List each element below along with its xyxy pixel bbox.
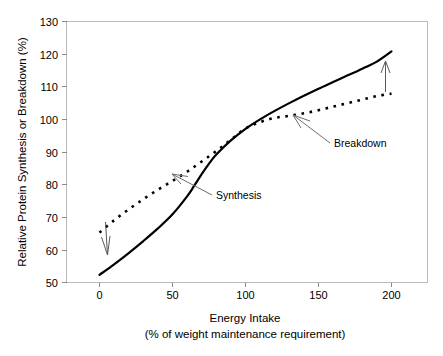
y-tick-label-60: 60 [46,245,58,257]
breakdown-annotation-label: Breakdown [334,137,387,149]
x-tick-label-150: 150 [309,289,327,301]
y-tick-label-90: 90 [46,147,58,159]
synthesis-annotation-label: Synthesis [216,189,262,201]
chart-figure: 130 120 110 100 90 80 70 60 50 0 50 100 … [0,0,443,356]
y-tick-label-120: 120 [40,49,58,61]
x-tick-label-100: 100 [236,289,254,301]
y-tick-label-50: 50 [46,277,58,289]
x-tick-label-0: 0 [96,289,102,301]
x-axis-title-line2: (% of weight maintenance requirement) [145,328,346,340]
y-tick-label-70: 70 [46,212,58,224]
y-tick-label-130: 130 [40,16,58,28]
x-axis-title-line1: Energy Intake [210,312,281,324]
y-tick-label-80: 80 [46,179,58,191]
protein-synthesis-breakdown-chart: 130 120 110 100 90 80 70 60 50 0 50 100 … [0,0,443,356]
y-tick-label-110: 110 [40,81,58,93]
x-tick-label-50: 50 [166,289,178,301]
y-tick-label-100: 100 [40,114,58,126]
x-tick-label-200: 200 [382,289,400,301]
y-axis-title: Relative Protein Synthesis or Breakdown … [16,37,28,267]
